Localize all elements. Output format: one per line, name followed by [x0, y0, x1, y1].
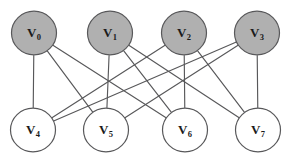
graph-canvas: V0V1V2V3V4V5V6V7	[0, 0, 289, 157]
graph-edge-v2-v6	[184, 56, 185, 108]
graph-edge-v0-v5	[47, 51, 92, 112]
node-label-subscript-v6: 6	[188, 129, 192, 139]
bipartite-graph-figure: V0V1V2V3V4V5V6V7	[0, 0, 289, 157]
graph-node-v4: V4	[11, 108, 56, 152]
node-label-subscript-v1: 1	[113, 32, 117, 42]
graph-edge-v3-v7	[257, 56, 258, 108]
graph-node-v7: V7	[236, 108, 281, 152]
graph-node-v3: V3	[235, 11, 280, 55]
node-label-subscript-v0: 0	[37, 32, 41, 42]
graph-node-v5: V5	[84, 108, 129, 152]
node-label-subscript-v4: 4	[36, 129, 41, 139]
edges-group	[33, 42, 258, 121]
node-label-subscript-v2: 2	[187, 32, 191, 42]
graph-edge-v0-v4	[33, 56, 34, 108]
graph-edge-v3-v4	[54, 42, 237, 121]
node-label-subscript-v3: 3	[260, 32, 264, 42]
graph-edge-v2-v7	[198, 51, 245, 112]
graph-node-v0: V0	[12, 11, 57, 55]
node-label-subscript-v5: 5	[109, 129, 113, 139]
graph-node-v1: V1	[88, 11, 133, 55]
graph-node-v6: V6	[163, 108, 208, 152]
graph-node-v2: V2	[162, 11, 207, 55]
node-label-subscript-v7: 7	[261, 129, 266, 139]
